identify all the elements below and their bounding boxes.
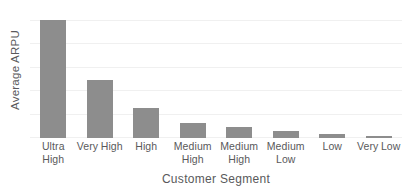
y-axis-title-label: Average ARPU <box>9 30 21 110</box>
x-axis-tick-label: High <box>123 140 170 170</box>
bar[interactable] <box>366 136 392 138</box>
y-axis-title: Average ARPU <box>0 0 30 140</box>
x-axis-tick-label: Ultra High <box>30 140 77 170</box>
bar-slot <box>30 8 77 138</box>
bar-slot <box>170 8 217 138</box>
x-axis-title: Customer Segment <box>30 172 402 186</box>
x-axis-tick-labels: Ultra HighVery HighHighMedium HighMedium… <box>30 140 402 170</box>
bar[interactable] <box>273 131 299 138</box>
x-axis-tick-label: Very Low <box>356 140 403 170</box>
x-axis-tick-label: Low <box>309 140 356 170</box>
x-axis-tick-label: Medium High <box>170 140 217 170</box>
bar[interactable] <box>180 123 206 138</box>
bar[interactable] <box>133 108 159 138</box>
bar[interactable] <box>226 127 252 138</box>
bar-slot <box>263 8 310 138</box>
bar[interactable] <box>87 80 113 138</box>
bar-slot <box>123 8 170 138</box>
bar-slot <box>309 8 356 138</box>
bar-slot <box>216 8 263 138</box>
x-axis-title-label: Customer Segment <box>162 172 270 186</box>
bar[interactable] <box>319 134 345 138</box>
arpu-bar-chart: Average ARPU Ultra HighVery HighHighMedi… <box>0 0 406 196</box>
plot-area <box>30 8 402 138</box>
bar-slot <box>77 8 124 138</box>
x-axis-tick-label: Medium High <box>216 140 263 170</box>
x-axis-tick-label: Medium Low <box>263 140 310 170</box>
bar[interactable] <box>40 20 66 138</box>
bars-layer <box>30 8 402 138</box>
x-axis-tick-label: Very High <box>77 140 124 170</box>
bar-slot <box>356 8 403 138</box>
